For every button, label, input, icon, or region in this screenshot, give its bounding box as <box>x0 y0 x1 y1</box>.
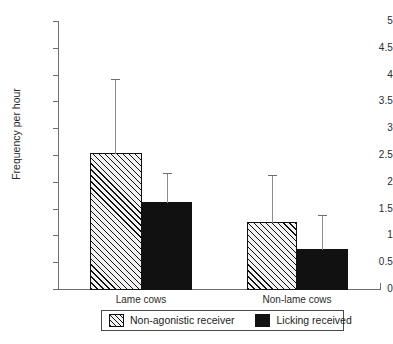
y-tick-label-2: 2 <box>349 177 393 187</box>
legend: Non-agonistic receiver Licking received <box>101 310 344 331</box>
legend-entry-licking-received: Licking received <box>255 314 351 327</box>
y-tick-label-4.5: 4.5 <box>349 43 393 53</box>
y-tick-label-3.5: 3.5 <box>349 96 393 106</box>
y-tick-label-3: 3 <box>349 123 393 133</box>
chart-figure: Frequency per hour 5 4.5 4 3.5 3 2.5 2 1… <box>0 0 393 344</box>
y-tick-label-5: 5 <box>349 16 393 26</box>
errorbar-cap-non-lame-cows-non-agonistic-receiver <box>268 175 277 176</box>
legend-entry-non-agonistic-receiver: Non-agonistic receiver <box>109 314 234 327</box>
y-tick-label-0: 0 <box>349 284 393 294</box>
errorbar-cap-lame-cows-licking-received <box>163 173 172 174</box>
bar-lame-cows-non-agonistic-receiver <box>90 153 142 290</box>
solid-swatch-icon <box>255 314 270 327</box>
y-tick-2.5 <box>53 155 58 156</box>
y-tick-1 <box>53 235 58 236</box>
errorbar-cap-lame-cows-non-agonistic-receiver <box>111 79 120 80</box>
errorbar-stem-lame-cows-non-agonistic-receiver <box>115 79 116 154</box>
y-tick-4.5 <box>53 48 58 49</box>
hatched-swatch-icon <box>109 314 124 327</box>
y-tick-0 <box>53 289 58 290</box>
y-tick-0.5 <box>53 262 58 263</box>
y-tick-1.5 <box>53 209 58 210</box>
bar-non-lame-cows-licking-received <box>297 249 348 290</box>
errorbar-cap-non-lame-cows-licking-received <box>318 215 327 216</box>
y-tick-label-4: 4 <box>349 70 393 80</box>
errorbar-stem-lame-cows-licking-received <box>167 173 168 203</box>
y-tick-label-0.5: 0.5 <box>349 257 393 267</box>
errorbar-stem-non-lame-cows-non-agonistic-receiver <box>272 175 273 223</box>
y-tick-3.5 <box>53 101 58 102</box>
legend-label-licking-received: Licking received <box>276 315 351 326</box>
y-tick-3 <box>53 128 58 129</box>
y-axis-title: Frequency per hour <box>10 74 22 194</box>
y-tick-5 <box>53 21 58 22</box>
plot-area: Frequency per hour 5 4.5 4 3.5 3 2.5 2 1… <box>0 0 393 344</box>
x-group-label-lame-cows: Lame cows <box>81 294 201 305</box>
x-group-label-non-lame-cows: Non-lame cows <box>237 294 357 305</box>
errorbar-stem-non-lame-cows-licking-received <box>322 215 323 250</box>
bar-lame-cows-licking-received <box>142 202 192 290</box>
y-tick-2 <box>53 182 58 183</box>
y-axis-line <box>58 21 59 290</box>
y-tick-label-1: 1 <box>349 230 393 240</box>
y-tick-label-2.5: 2.5 <box>349 150 393 160</box>
bar-non-lame-cows-non-agonistic-receiver <box>247 222 297 290</box>
y-tick-label-1.5: 1.5 <box>349 204 393 214</box>
y-tick-4 <box>53 75 58 76</box>
legend-label-non-agonistic-receiver: Non-agonistic receiver <box>130 315 234 326</box>
